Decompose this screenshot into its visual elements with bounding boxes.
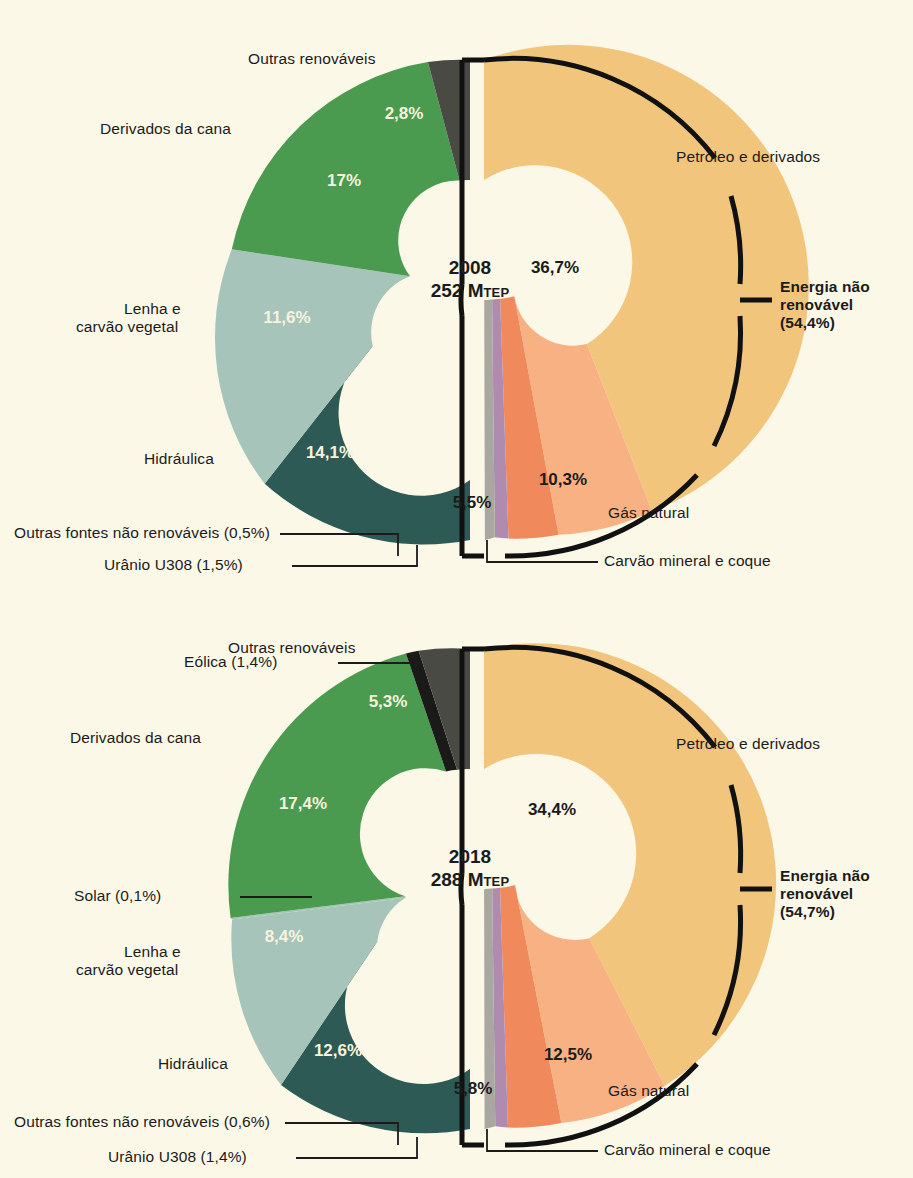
leader-carvao-mineral — [487, 540, 598, 562]
center-total-unit: TEP — [483, 874, 509, 889]
center-year: 2018 — [431, 846, 510, 869]
callout-lenha-carvao-vegetal-2: carvão vegetal — [76, 318, 178, 337]
callout-gas-natural: Gás natural — [608, 504, 689, 523]
value-petroleo-derivados: 34,4% — [528, 800, 576, 820]
chart-2018: 2018 288 MTEP 34,4% 12,5% 5,8% 12,6% 8,4… — [0, 589, 913, 1178]
center-total: 252 MTEP — [431, 280, 510, 303]
value-outras-renovaveis: 2,8% — [385, 104, 424, 124]
callout-outras-renovaveis: Outras renováveis — [248, 50, 375, 69]
callout-derivados-da-cana: Derivados da cana — [100, 120, 231, 139]
callout-hidraulica: Hidráulica — [158, 1055, 228, 1074]
callout-hidraulica: Hidráulica — [144, 450, 214, 469]
value-derivados-da-cana: 17% — [327, 171, 361, 191]
callout-outras-fontes-nao-renovaveis: Outras fontes não renováveis (0,6%) — [14, 1113, 270, 1132]
slice-derivados-da-cana — [232, 62, 460, 276]
callout-lenha-carvao-vegetal-1: Lenha e — [124, 943, 181, 962]
value-carvao-mineral-coque: 5,8% — [454, 1079, 493, 1099]
group-label-line1: Energia não — [780, 278, 870, 296]
leader-carvao-mineral — [487, 1129, 598, 1151]
group-label-line3: (54,7%) — [780, 903, 870, 921]
chart-2008: 2008 252 MTEP 36,7% 10,3% 5,5% 14,1% 11,… — [0, 0, 913, 589]
value-gas-natural: 12,5% — [544, 1045, 592, 1065]
value-lenha-carvao-vegetal: 8,4% — [265, 927, 304, 947]
group-label-line2: renovável — [780, 296, 870, 314]
callout-carvao-mineral-coque: Carvão mineral e coque — [604, 1141, 771, 1160]
callout-eolica: Eólica (1,4%) — [184, 653, 277, 672]
group-label-line1: Energia não — [780, 867, 870, 885]
callout-uranio-u308: Urânio U308 (1,4%) — [108, 1148, 247, 1167]
callout-solar: Solar (0,1%) — [74, 887, 161, 906]
value-carvao-mineral-coque: 5,5% — [453, 493, 492, 513]
callout-carvao-mineral-coque: Carvão mineral e coque — [604, 552, 771, 571]
callout-lenha-carvao-vegetal-1: Lenha e — [124, 300, 181, 319]
center-total-unit: TEP — [483, 285, 509, 300]
group-label-non-renewable-2008: Energia não renovável (54,4%) — [780, 278, 870, 332]
value-outras-renovaveis: 5,3% — [369, 692, 408, 712]
value-derivados-da-cana: 17,4% — [279, 794, 327, 814]
callout-gas-natural: Gás natural — [608, 1082, 689, 1101]
center-year: 2008 — [431, 257, 510, 280]
slice-derivados-da-cana — [228, 653, 446, 918]
value-hidraulica: 14,1% — [306, 443, 354, 463]
slices-2008 — [215, 45, 809, 545]
center-label-2018: 2018 288 MTEP — [431, 846, 510, 892]
callout-petroleo-derivados: Petróleo e derivados — [676, 735, 820, 754]
callout-outras-fontes-nao-renovaveis: Outras fontes não renováveis (0,5%) — [14, 524, 270, 543]
group-label-line2: renovável — [780, 885, 870, 903]
center-total: 288 MTEP — [431, 869, 510, 892]
group-label-line3: (54,4%) — [780, 314, 870, 332]
callout-petroleo-derivados: Petróleo e derivados — [676, 148, 820, 167]
callout-lenha-carvao-vegetal-2: carvão vegetal — [76, 961, 178, 980]
value-lenha-carvao-vegetal: 11,6% — [263, 308, 310, 328]
group-label-non-renewable-2018: Energia não renovável (54,7%) — [780, 867, 870, 921]
value-hidraulica: 12,6% — [314, 1041, 362, 1061]
callout-derivados-da-cana: Derivados da cana — [70, 729, 201, 748]
value-gas-natural: 10,3% — [539, 470, 587, 490]
callout-uranio-u308: Urânio U308 (1,5%) — [104, 556, 243, 575]
value-petroleo-derivados: 36,7% — [531, 258, 579, 278]
center-label-2008: 2008 252 MTEP — [431, 257, 510, 303]
